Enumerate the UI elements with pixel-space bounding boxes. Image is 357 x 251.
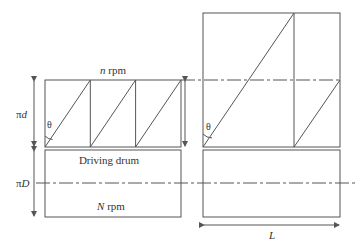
driving-drum-label: Driving drum — [79, 154, 140, 166]
bottom-speed-label: N rpm — [96, 200, 125, 212]
pi-D-label: πD — [16, 177, 30, 189]
top-speed-label: n rpm — [100, 64, 126, 76]
belt-drum-diagram: n rpm πd θ θ Driving drum πD N rpm L — [0, 0, 357, 251]
theta-label-left: θ — [47, 119, 52, 130]
helix-line — [294, 80, 340, 147]
helix-line — [90, 80, 135, 147]
pi-d-label: πd — [16, 108, 28, 120]
theta-label-right: θ — [206, 121, 211, 132]
helix-line — [45, 80, 90, 147]
length-label: L — [268, 229, 275, 241]
helix-line — [136, 80, 181, 147]
